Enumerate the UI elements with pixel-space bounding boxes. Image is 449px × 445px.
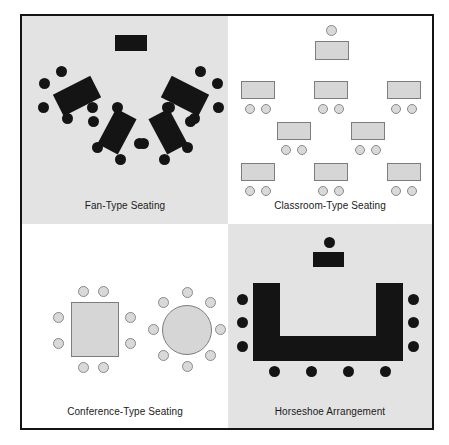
classroom-chair-r2-c1-a bbox=[281, 145, 291, 155]
seating-arrangement-figure: Fan-Type Seating Classroom bbox=[20, 14, 434, 430]
panel-conference-type-seating: Conference-Type Seating bbox=[22, 224, 228, 428]
conference-round-chair-ne bbox=[205, 297, 216, 308]
conference-rect-chair-top-1 bbox=[78, 286, 89, 297]
conference-round-chair-n bbox=[182, 287, 193, 298]
fan-chair-1-4 bbox=[62, 113, 73, 124]
fan-chair-2-3 bbox=[92, 142, 103, 153]
classroom-instructor-chair bbox=[326, 25, 337, 36]
horseshoe-chair-bottom-2 bbox=[306, 366, 317, 377]
classroom-chair-r2-c1-b bbox=[297, 145, 307, 155]
classroom-desk-r3-c2 bbox=[314, 163, 348, 181]
horseshoe-chair-left-2 bbox=[237, 317, 248, 328]
panel-horseshoe-arrangement: Horseshoe Arrangement bbox=[228, 224, 432, 428]
conference-round-chair-w bbox=[148, 324, 159, 335]
fan-chair-1-1 bbox=[56, 66, 67, 77]
caption-fan-type: Fan-Type Seating bbox=[22, 200, 228, 211]
fan-chair-2-1 bbox=[112, 102, 123, 113]
conference-round-chair-se bbox=[205, 350, 216, 361]
classroom-chair-r3-c1-b bbox=[261, 186, 271, 196]
classroom-chair-r1-c2-a bbox=[318, 104, 328, 114]
fan-chair-3-3 bbox=[182, 142, 193, 153]
fan-chair-4-5 bbox=[164, 102, 175, 113]
classroom-chair-r1-c1-a bbox=[245, 104, 255, 114]
fan-chair-3-5 bbox=[138, 138, 149, 149]
fan-chair-2-4 bbox=[115, 154, 126, 165]
fan-chair-4-3 bbox=[213, 102, 224, 113]
classroom-chair-r2-c2-b bbox=[371, 145, 381, 155]
fan-chair-2-2 bbox=[88, 116, 99, 127]
classroom-chair-r3-c3-b bbox=[407, 186, 417, 196]
classroom-desk-r2-c2 bbox=[351, 122, 385, 140]
horseshoe-chair-right-3 bbox=[408, 341, 419, 352]
classroom-chair-r3-c3-a bbox=[391, 186, 401, 196]
fan-table-2 bbox=[97, 108, 136, 154]
classroom-desk-r3-c1 bbox=[241, 163, 275, 181]
classroom-desk-r1-c1 bbox=[241, 81, 275, 99]
horseshoe-instructor-desk bbox=[313, 252, 344, 267]
instructor-desk bbox=[115, 35, 147, 51]
conference-round-chair-sw bbox=[158, 350, 169, 361]
horseshoe-chair-bottom-1 bbox=[269, 366, 280, 377]
conference-round-group bbox=[140, 284, 230, 376]
conference-round-chair-s bbox=[182, 361, 193, 372]
fan-chair-4-4 bbox=[189, 113, 200, 124]
conference-round-table bbox=[162, 305, 212, 355]
conference-rect-chair-left-2 bbox=[53, 338, 64, 349]
conference-rect-chair-left-1 bbox=[53, 312, 64, 323]
caption-conference-type: Conference-Type Seating bbox=[22, 406, 228, 417]
horseshoe-chair-left-3 bbox=[237, 341, 248, 352]
classroom-desk-r3-c3 bbox=[387, 163, 421, 181]
panel-fan-type-seating: Fan-Type Seating bbox=[22, 16, 228, 224]
classroom-desk-r1-c3 bbox=[387, 81, 421, 99]
caption-classroom-type: Classroom-Type Seating bbox=[228, 200, 432, 211]
horseshoe-instructor-chair bbox=[324, 237, 335, 248]
classroom-chair-r1-c3-b bbox=[407, 104, 417, 114]
caption-horseshoe: Horseshoe Arrangement bbox=[228, 406, 432, 417]
conference-round-chair-nw bbox=[158, 297, 169, 308]
conference-rect-chair-top-2 bbox=[98, 286, 109, 297]
horseshoe-chair-left-1 bbox=[237, 294, 248, 305]
classroom-chair-r3-c1-a bbox=[245, 186, 255, 196]
horseshoe-chair-bottom-4 bbox=[380, 366, 391, 377]
classroom-chair-r2-c2-a bbox=[355, 145, 365, 155]
classroom-chair-r3-c2-a bbox=[318, 186, 328, 196]
classroom-desk-r2-c1 bbox=[277, 122, 311, 140]
classroom-chair-r1-c2-b bbox=[334, 104, 344, 114]
conference-rect-chair-bottom-1 bbox=[78, 362, 89, 373]
fan-chair-3-4 bbox=[159, 154, 170, 165]
classroom-chair-r3-c2-b bbox=[334, 186, 344, 196]
horseshoe-chair-right-2 bbox=[408, 317, 419, 328]
conference-rect-chair-right-2 bbox=[125, 338, 136, 349]
classroom-desk-r1-c2 bbox=[314, 81, 348, 99]
conference-rectangular-group bbox=[50, 284, 140, 376]
classroom-chair-r1-c1-b bbox=[261, 104, 271, 114]
fan-chair-1-3 bbox=[38, 102, 49, 113]
fan-chair-4-2 bbox=[212, 78, 223, 89]
conference-rect-chair-right-1 bbox=[125, 312, 136, 323]
horseshoe-table-base bbox=[253, 336, 403, 361]
fan-table-group-4 bbox=[146, 66, 224, 128]
panel-classroom-type-seating: Classroom-Type Seating bbox=[228, 16, 432, 224]
conference-round-chair-e bbox=[215, 324, 226, 335]
fan-chair-1-2 bbox=[39, 78, 50, 89]
classroom-instructor-desk bbox=[315, 41, 349, 60]
horseshoe-chair-right-1 bbox=[408, 294, 419, 305]
conference-rectangular-table bbox=[71, 302, 119, 357]
classroom-chair-r1-c3-a bbox=[391, 104, 401, 114]
conference-rect-chair-bottom-2 bbox=[98, 362, 109, 373]
fan-chair-4-1 bbox=[195, 66, 206, 77]
horseshoe-chair-bottom-3 bbox=[343, 366, 354, 377]
